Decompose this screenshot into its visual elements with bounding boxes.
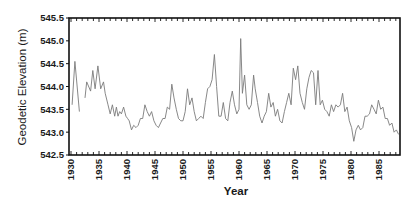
y-tick-label: 545.5 — [40, 12, 64, 23]
plot-frame — [69, 18, 400, 155]
y-tick-label: 543.0 — [40, 127, 64, 138]
y-tick-label: 544.0 — [40, 81, 64, 92]
plot-area — [69, 18, 400, 155]
elevation-line-chart: 1930193519401945195019551960196519701975… — [0, 0, 417, 203]
elevation-series — [72, 39, 399, 142]
y-tick-label: 542.5 — [40, 149, 64, 160]
x-axis-title: Year — [224, 185, 249, 197]
x-tick-label: 1970 — [289, 159, 300, 180]
x-tick-label: 1940 — [121, 159, 132, 180]
x-tick-label: 1980 — [345, 159, 356, 180]
x-tick-label: 1945 — [149, 158, 160, 180]
x-tick-label: 1955 — [205, 158, 216, 180]
x-tick-label: 1965 — [261, 158, 272, 180]
x-tick-label: 1985 — [373, 158, 384, 180]
x-tick-label: 1935 — [93, 158, 104, 180]
series-line — [85, 39, 399, 142]
y-tick-label: 545.0 — [40, 35, 64, 46]
x-tick-label: 1975 — [317, 158, 328, 180]
y-axis: 542.5543.0543.5544.0544.5545.0545.5 — [40, 12, 69, 160]
series-line — [72, 61, 79, 111]
y-axis-title: Geodetic Elevation (m) — [16, 28, 28, 145]
x-tick-label: 1960 — [233, 159, 244, 180]
x-tick-label: 1930 — [65, 159, 76, 180]
y-tick-label: 543.5 — [40, 104, 64, 115]
y-tick-label: 544.5 — [40, 58, 64, 69]
x-tick-label: 1950 — [177, 159, 188, 180]
